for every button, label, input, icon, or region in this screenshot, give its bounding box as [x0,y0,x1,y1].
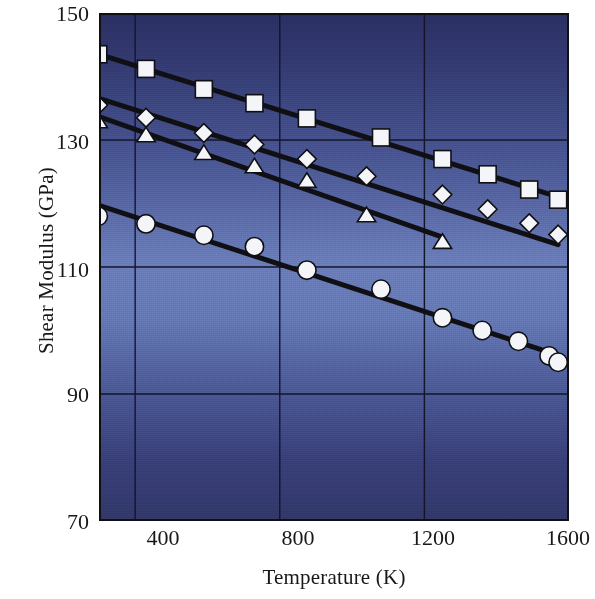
x-axis-title: Temperature (K) [99,565,569,590]
x-tick-label: 1600 [508,527,595,549]
y-tick-label: 110 [0,259,89,281]
data-point-square [195,81,212,98]
data-point-circle [137,215,155,233]
data-point-circle [372,280,390,298]
data-point-square [434,151,451,168]
data-series-layer [99,13,569,521]
data-point-square [99,46,107,63]
data-point-square [521,181,538,198]
data-point-square [550,191,567,208]
data-point-circle [509,332,527,350]
data-point-diamond [433,185,452,204]
data-point-square [479,166,496,183]
data-point-square [298,110,315,127]
data-point-square [246,95,263,112]
data-point-triangle [245,158,263,173]
data-point-circle [245,238,263,256]
data-point-diamond [194,124,213,143]
y-tick-label: 90 [0,384,89,406]
x-tick-label: 1200 [373,527,493,549]
data-point-square [373,129,390,146]
x-tick-label: 800 [238,527,358,549]
data-point-circle [433,309,451,327]
data-point-diamond [478,200,497,219]
data-point-square [138,60,155,77]
x-tick-label: 400 [103,527,223,549]
data-point-triangle [298,173,316,188]
data-point-circle [298,261,316,279]
chart-figure: Shear Modulus (GPa) 150 130 110 90 70 40… [0,0,595,599]
data-point-circle [473,321,491,339]
plot-area [99,13,569,521]
y-tick-label: 130 [0,131,89,153]
y-tick-label: 70 [0,511,89,533]
data-point-circle [549,353,567,371]
data-point-circle [195,226,213,244]
data-point-diamond [520,214,539,233]
y-tick-label: 150 [0,3,89,25]
